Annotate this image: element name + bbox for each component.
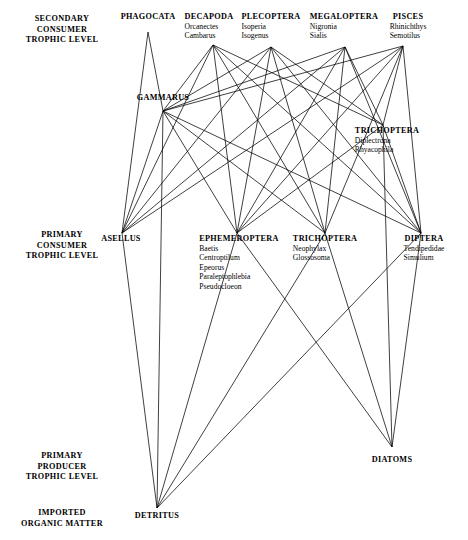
edge-plecoptera-to-trichoptera-lo (271, 47, 325, 233)
node-megaloptera[interactable]: MEGALOPTERANigroniaSialis (310, 12, 378, 41)
node-trichoptera-up[interactable]: TRICHOPTERADiplectronaRhyacophila (355, 126, 419, 155)
genus-name: Isoperia (242, 22, 301, 31)
node-label-diatoms: DIATOMS (372, 455, 412, 465)
genus-name: Isogenus (242, 31, 301, 40)
genus-list-trichoptera-lo: NeophylaxGlossosoma (293, 244, 357, 263)
node-decapoda[interactable]: DECAPODAOrcanectesCambarus (185, 12, 234, 41)
genus-list-decapoda: OrcanectesCambarus (185, 22, 234, 41)
tier-label-line: SECONDARY (0, 14, 132, 25)
node-label-megaloptera: MEGALOPTERA (310, 12, 378, 22)
edge-decapoda-to-asellus (122, 45, 213, 233)
genus-name: Paraleptophlebia (199, 272, 278, 281)
tier-label-primary-producer: PRIMARYPRODUCERTROPHIC LEVEL (0, 451, 132, 483)
genus-name: Rhyacophila (355, 145, 419, 154)
edge-decapoda-to-ephemeroptera (213, 45, 237, 233)
edge-megaloptera-to-trichoptera-up (345, 47, 383, 125)
node-asellus[interactable]: ASELLUS (101, 234, 140, 244)
food-web-diagram: SECONDARYCONSUMERTROPHIC LEVELPRIMARYCON… (0, 0, 468, 540)
genus-name: Semotilus (390, 31, 427, 40)
edge-megaloptera-to-gammarus (163, 47, 345, 111)
edge-megaloptera-to-ephemeroptera (237, 47, 345, 233)
genus-name: Tendipedidae (404, 244, 445, 253)
genus-name: Glossosoma (293, 253, 357, 262)
edge-gammarus-to-ephemeroptera (163, 111, 237, 233)
genus-name: Sialis (310, 31, 378, 40)
edge-trichoptera-lo-to-diatoms (325, 233, 392, 447)
edge-gammarus-to-detritus (157, 111, 163, 508)
edge-megaloptera-to-trichoptera-lo (325, 47, 345, 233)
node-plecoptera[interactable]: PLECOPTERAIsoperiaIsogenus (242, 12, 301, 41)
edge-diptera-to-detritus (157, 233, 421, 508)
tier-label-line: TROPHIC LEVEL (0, 35, 132, 46)
edge-pisces-to-trichoptera-up (383, 46, 403, 125)
tier-label-secondary-consumer: SECONDARYCONSUMERTROPHIC LEVEL (0, 14, 132, 46)
genus-name: Nigronia (310, 22, 378, 31)
genus-name: Centroptilum (199, 253, 278, 262)
node-detritus[interactable]: DETRITUS (135, 511, 179, 521)
node-pisces[interactable]: PISCESRhinichthysSemotilus (390, 12, 427, 41)
genus-list-trichoptera-up: DiplectronaRhyacophila (355, 136, 419, 155)
node-label-gammarus: GAMMARUS (137, 93, 189, 103)
genus-name: Pseudocloeon (199, 282, 278, 291)
tier-label-line: TROPHIC LEVEL (0, 251, 132, 262)
edge-phagocata-to-asellus (122, 32, 148, 233)
tier-label-imported-organic: IMPORTEDORGANIC MATTER (0, 508, 132, 529)
node-label-pisces: PISCES (390, 12, 427, 22)
edge-diptera-to-diatoms (392, 233, 421, 447)
node-label-trichoptera-lo: TRICHOPTERA (293, 234, 357, 244)
node-label-diptera: DIPTERA (404, 234, 445, 244)
node-label-plecoptera: PLECOPTERA (242, 12, 301, 22)
tier-label-line: PRODUCER (0, 462, 132, 473)
edge-gammarus-to-asellus (122, 111, 163, 233)
genus-list-ephemeroptera: BaetisCentroptilumEpeorusParaleptophlebi… (199, 244, 278, 291)
edge-gammarus-to-trichoptera-lo (163, 111, 325, 233)
edge-plecoptera-to-trichoptera-up (271, 47, 383, 125)
genus-name: Neophylax (293, 244, 357, 253)
node-label-trichoptera-up: TRICHOPTERA (355, 126, 419, 136)
node-label-detritus: DETRITUS (135, 511, 179, 521)
tier-label-line: TROPHIC LEVEL (0, 472, 132, 483)
genus-name: Diplectrona (355, 136, 419, 145)
tier-label-line: IMPORTED (0, 508, 132, 519)
genus-list-megaloptera: NigroniaSialis (310, 22, 378, 41)
genus-list-pisces: RhinichthysSemotilus (390, 22, 427, 41)
tier-label-line: ORGANIC MATTER (0, 519, 132, 530)
node-phagocata[interactable]: PHAGOCATA (121, 12, 176, 22)
node-diptera[interactable]: DIPTERATendipedidaeSimulium (404, 234, 445, 263)
tier-label-line: CONSUMER (0, 25, 132, 36)
node-label-phagocata: PHAGOCATA (121, 12, 176, 22)
node-label-decapoda: DECAPODA (185, 12, 234, 22)
edge-trichoptera-up-to-diatoms (383, 125, 392, 447)
genus-name: Rhinichthys (390, 22, 427, 31)
node-label-asellus: ASELLUS (101, 234, 140, 244)
genus-name: Epeorus (199, 263, 278, 272)
edge-decapoda-to-trichoptera-up (213, 45, 383, 125)
tier-label-line: PRIMARY (0, 451, 132, 462)
genus-list-diptera: TendipedidaeSimulium (404, 244, 445, 263)
node-trichoptera-lo[interactable]: TRICHOPTERANeophylaxGlossosoma (293, 234, 357, 263)
genus-name: Simulium (404, 253, 445, 262)
genus-list-plecoptera: IsoperiaIsogenus (242, 22, 301, 41)
node-diatoms[interactable]: DIATOMS (372, 455, 412, 465)
genus-name: Baetis (199, 244, 278, 253)
genus-name: Cambarus (185, 31, 234, 40)
edge-plecoptera-to-asellus (122, 47, 271, 233)
node-label-ephemeroptera: EPHEMEROPTERA (199, 234, 278, 244)
node-ephemeroptera[interactable]: EPHEMEROPTERABaetisCentroptilumEpeorusPa… (199, 234, 278, 291)
genus-name: Orcanectes (185, 22, 234, 31)
node-gammarus[interactable]: GAMMARUS (137, 93, 189, 103)
